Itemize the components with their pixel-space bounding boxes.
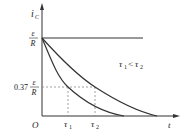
rc-discharge-diagram: i C ε R 0.37 ε R O τ 1 τ 2 t τ 1 < τ 2 xyxy=(0,0,189,132)
x-axis-label: t xyxy=(168,120,171,130)
level-numerator: ε xyxy=(32,78,36,87)
y-axis-label: i xyxy=(31,8,34,19)
x-axis-arrow-icon xyxy=(173,114,180,118)
origin-label: O xyxy=(32,120,39,130)
emf-numerator: ε xyxy=(31,29,35,38)
level-denominator: R xyxy=(31,88,37,97)
tau2-subscript: 2 xyxy=(96,124,99,130)
tau2-label: τ xyxy=(91,119,95,129)
y-axis-arrow-icon xyxy=(40,3,44,10)
comparison-right: τ xyxy=(135,59,139,69)
y-axis-subscript: C xyxy=(35,14,40,20)
level-coefficient: 0.37 xyxy=(14,83,28,92)
comparison-operator: < xyxy=(128,59,133,69)
tau1-subscript: 1 xyxy=(69,124,72,130)
comparison-left: τ xyxy=(119,59,123,69)
curve-tau1 xyxy=(42,38,124,116)
emf-denominator: R xyxy=(30,39,36,48)
comparison-left-sub: 1 xyxy=(124,64,127,70)
comparison-right-sub: 2 xyxy=(140,64,143,70)
tau1-label: τ xyxy=(64,119,68,129)
